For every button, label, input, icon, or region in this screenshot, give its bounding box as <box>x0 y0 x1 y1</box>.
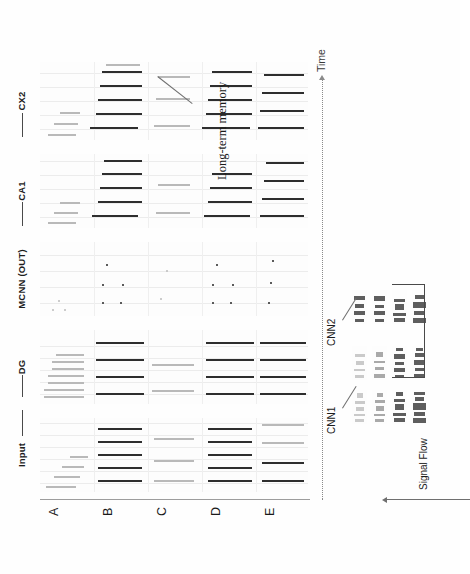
signal-flow-line <box>386 499 470 500</box>
annotation-cnn1: CNN1 <box>326 407 337 434</box>
panel-label-dg: DG <box>16 360 27 375</box>
thumb-cnn2-r3c2 <box>372 290 387 324</box>
panel-label-ca1: CA1 <box>16 181 27 201</box>
time-axis <box>322 80 323 500</box>
cnn-bracket <box>392 284 425 378</box>
thumb-cnn1-r3c1 <box>392 390 407 424</box>
panel-label-cx2: CX2 <box>16 91 27 110</box>
row-label-a: A <box>47 508 61 516</box>
row-label-e: E <box>263 508 277 516</box>
time-axis-arrow <box>319 75 325 80</box>
thumb-cnn1-r1c1 <box>352 390 367 424</box>
thumb-cnn2-r1c1 <box>352 346 367 380</box>
signal-flow-arrow <box>382 497 387 503</box>
panel-rule-input <box>22 410 23 436</box>
panel-input <box>40 418 308 492</box>
thumb-cnn1-r4c1 <box>412 390 427 424</box>
panel-dg <box>40 330 308 404</box>
panel-rule-dg <box>22 375 23 397</box>
panel-label-mcnn-out: MCNN (OUT) <box>16 249 27 309</box>
thumb-cnn2-r4c2 <box>352 290 367 324</box>
thumb-cnn1-r2c1 <box>372 390 387 424</box>
panel-mcnn-out <box>40 242 308 316</box>
panel-ca1 <box>40 154 308 228</box>
panel-cx2 <box>40 62 308 140</box>
annotation-long-term-memory: Long-term memory <box>215 82 230 180</box>
row-label-b: B <box>101 508 115 516</box>
annotation-cnn2: CNN2 <box>326 319 337 346</box>
panel-label-input: Input <box>16 443 27 467</box>
y-axis-spine <box>40 499 310 500</box>
panel-rule-cx2 <box>22 113 23 137</box>
row-label-d: D <box>209 507 223 516</box>
time-axis-label: Time <box>315 49 327 72</box>
annotation-signal-flow: Signal Flow <box>418 438 429 490</box>
row-label-c: C <box>155 507 169 516</box>
thumb-cnn2-r2c1 <box>372 346 387 380</box>
panel-rule-ca1 <box>22 202 23 226</box>
